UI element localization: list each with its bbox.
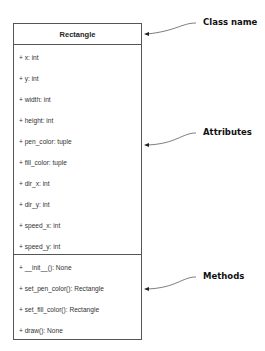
class-name-header: Rectangle — [14, 24, 141, 45]
method-row: + draw(): None — [14, 320, 141, 341]
attribute-row: + dir_x: int — [14, 173, 141, 194]
method-row: + __init__(): None — [14, 257, 141, 278]
arrowhead-icon — [144, 143, 149, 147]
callout-class-name: Class name — [203, 17, 257, 27]
attribute-row: + width: int — [14, 89, 141, 110]
attribute-row: + y: int — [14, 68, 141, 89]
attribute-row: + x: int — [14, 47, 141, 68]
method-row: + set_fill_color(): Rectangle — [14, 299, 141, 320]
attribute-row: + height: int — [14, 110, 141, 131]
callout-methods: Methods — [203, 271, 244, 281]
class-name: Rectangle — [60, 30, 96, 39]
class-name-arrow — [147, 23, 196, 34]
arrowhead-icon — [144, 32, 149, 36]
arrowhead-icon — [144, 287, 149, 291]
attributes-section: + x: int + y: int + width: int + height:… — [14, 45, 141, 255]
attribute-row: + speed_y: int — [14, 236, 141, 257]
method-row: + set_pen_color(): Rectangle — [14, 278, 141, 299]
methods-arrow — [147, 277, 196, 289]
callout-attributes: Attributes — [203, 127, 252, 137]
attribute-row: + speed_x: int — [14, 215, 141, 236]
methods-section: + __init__(): None + set_pen_color(): Re… — [14, 255, 141, 341]
attribute-row: + fill_color: tuple — [14, 152, 141, 173]
uml-class-box: Rectangle + x: int + y: int + width: int… — [13, 23, 142, 340]
attribute-row: + dir_y: int — [14, 194, 141, 215]
attributes-arrow — [147, 133, 196, 145]
attribute-row: + pen_color: tuple — [14, 131, 141, 152]
